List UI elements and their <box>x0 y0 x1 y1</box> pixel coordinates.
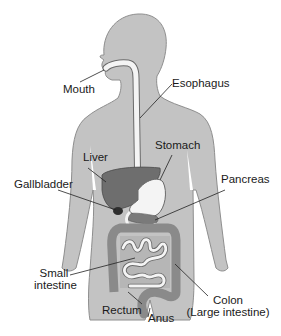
label-gallbladder: Gallbladder <box>14 178 73 190</box>
label-rectum: Rectum <box>102 304 142 316</box>
label-pancreas: Pancreas <box>221 173 270 185</box>
gallbladder <box>113 207 123 215</box>
label-small-intestine-line1: Small <box>34 267 74 279</box>
label-small-intestine-line2: intestine <box>34 279 74 291</box>
label-liver: Liver <box>83 151 108 163</box>
label-stomach: Stomach <box>155 139 200 151</box>
label-anus: Anus <box>148 312 174 324</box>
digestive-system-diagram: Mouth Esophagus Stomach Liver Gallbladde… <box>0 0 281 336</box>
label-esophagus: Esophagus <box>172 77 230 89</box>
label-colon-line1: Colon <box>186 294 270 306</box>
label-colon-line2: (Large intestine) <box>186 306 270 318</box>
label-small-intestine: Small intestine <box>34 267 74 291</box>
label-colon: Colon (Large intestine) <box>186 294 270 318</box>
label-mouth: Mouth <box>63 83 95 95</box>
